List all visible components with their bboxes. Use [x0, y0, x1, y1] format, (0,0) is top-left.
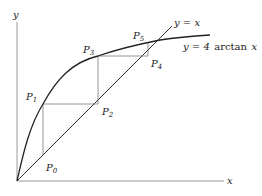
arctan-curve	[17, 35, 210, 181]
point-label-p4: P4	[150, 58, 162, 71]
x-axis-label: x	[227, 175, 233, 186]
identity-line	[17, 26, 172, 181]
y-axis-label: y	[12, 9, 19, 20]
point-label-p5: P5	[132, 30, 145, 43]
cobweb-path	[43, 42, 148, 155]
point-label-p0: P0	[45, 162, 58, 175]
identity-line-label: y = x	[173, 17, 200, 28]
cobweb-diagram: y x y = x y = 4 arctan x P0 P1 P2 P3 P4 …	[0, 0, 262, 196]
point-label-p3: P3	[82, 44, 95, 57]
point-label-p1: P1	[25, 91, 37, 104]
arctan-curve-label: y = 4 arctan x	[182, 41, 258, 52]
point-label-p2: P2	[101, 106, 114, 119]
